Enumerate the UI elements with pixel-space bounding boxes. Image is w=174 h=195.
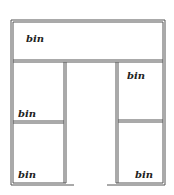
bin-label-top: bin (26, 33, 44, 44)
outer-frame (11, 20, 165, 185)
bin-label-left-lower: bin (18, 169, 36, 180)
bin-diagram: bin bin bin bin bin (0, 0, 174, 195)
bin-label-right-lower: bin (135, 169, 153, 180)
left-column: bin bin (13, 62, 66, 183)
right-column: bin bin (116, 62, 163, 183)
bin-label-left-upper: bin (18, 108, 36, 119)
top-bin: bin (13, 33, 163, 62)
bin-label-right-upper: bin (127, 70, 145, 81)
